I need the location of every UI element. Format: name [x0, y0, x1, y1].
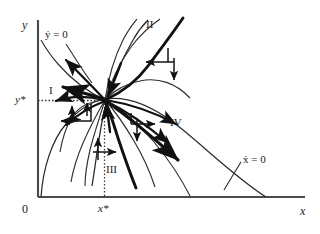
- equilibrium-point: [102, 97, 107, 102]
- region-label-II: II: [146, 19, 153, 30]
- region-label-IV: IV: [170, 117, 182, 128]
- x-axis-label: x: [300, 205, 305, 217]
- label-leader-lines: [66, 44, 241, 190]
- phase-diagram-figure: y x 0 y* x* ẏ = 0 ẋ = 0 I II III IV: [0, 0, 320, 234]
- origin-label: 0: [22, 203, 28, 215]
- saddle-path-arms: [56, 18, 183, 188]
- ydot-nullcline-label: ẏ = 0: [45, 29, 68, 40]
- axis-lines: [38, 20, 305, 197]
- region-label-I: I: [49, 85, 53, 96]
- y-star-tick-label: y*: [15, 94, 25, 105]
- region-label-III: III: [106, 164, 117, 175]
- x-star-tick-label: x*: [98, 203, 108, 214]
- y-axis-label: y: [22, 19, 27, 31]
- xdot-nullcline-label: ẋ = 0: [243, 154, 266, 165]
